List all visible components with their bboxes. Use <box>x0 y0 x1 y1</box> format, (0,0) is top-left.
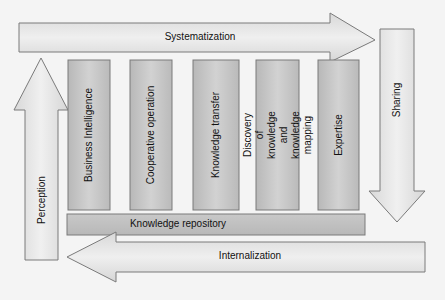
column-label-cooperative-operation: Cooperative operation <box>145 86 157 184</box>
column-label-expertise: Expertise <box>333 114 345 156</box>
column-label-discovery-mapping: Discovery of knowledge and knowledge map… <box>242 111 314 159</box>
column-label-business-intelligence: Business Intelligence <box>83 88 95 182</box>
column-5: Expertise <box>318 60 359 210</box>
column-4: Discovery of knowledge and knowledge map… <box>256 60 299 210</box>
perception-label: Perception <box>36 176 48 224</box>
systematization-label: Systematization <box>140 31 260 42</box>
sharing-label: Sharing <box>392 83 404 117</box>
column-3: Knowledge transfer <box>193 60 239 210</box>
sharing-label-wrap: Sharing <box>380 60 415 140</box>
knowledge-repository-label: Knowledge repository <box>118 218 238 229</box>
column-label-knowledge-transfer: Knowledge transfer <box>210 92 222 178</box>
column-2: Cooperative operation <box>130 60 172 210</box>
perception-label-wrap: Perception <box>25 140 58 260</box>
internalization-label: Internalization <box>200 250 300 261</box>
column-1: Business Intelligence <box>68 60 110 210</box>
